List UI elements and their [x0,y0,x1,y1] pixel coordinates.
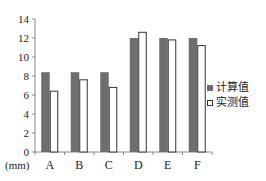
bar-measured [198,46,206,152]
bar-measured [168,40,176,152]
bar-measured [80,80,88,152]
x-tick-label: B [75,158,83,172]
x-tick-label: A [45,158,54,172]
legend-label-measured: 实测值 [216,95,249,110]
bar-calculated [100,72,109,152]
bar-calculated [189,38,198,152]
x-axis-unit-label: (mm) [5,159,30,172]
legend-swatch-measured [207,100,213,106]
y-tick-label: 2 [24,127,30,139]
legend-item-measured: 实测值 [207,95,249,110]
y-tick-label: 6 [24,89,30,101]
bar-measured [139,32,147,152]
bar-calculated [130,38,139,152]
bar-calculated [71,72,80,152]
legend-swatch-calculated [207,85,213,91]
y-tick-label: 10 [18,51,30,63]
x-tick-label: D [134,158,143,172]
y-tick-label: 12 [18,32,29,44]
bar-calculated [41,72,50,152]
legend-label-calculated: 计算值 [216,80,249,95]
legend-item-calculated: 计算值 [207,80,249,95]
x-tick-label: F [194,158,201,172]
y-tick-label: 14 [18,13,30,25]
y-tick-label: 0 [24,146,30,158]
chart-legend: 计算值 实测值 [207,80,249,110]
x-tick-label: E [164,158,171,172]
x-tick-label: C [105,158,113,172]
y-tick-label: 8 [24,70,30,82]
bar-measured [109,87,117,152]
bar-calculated [159,38,168,152]
y-tick-label: 4 [24,108,30,120]
bar-measured [50,91,58,152]
